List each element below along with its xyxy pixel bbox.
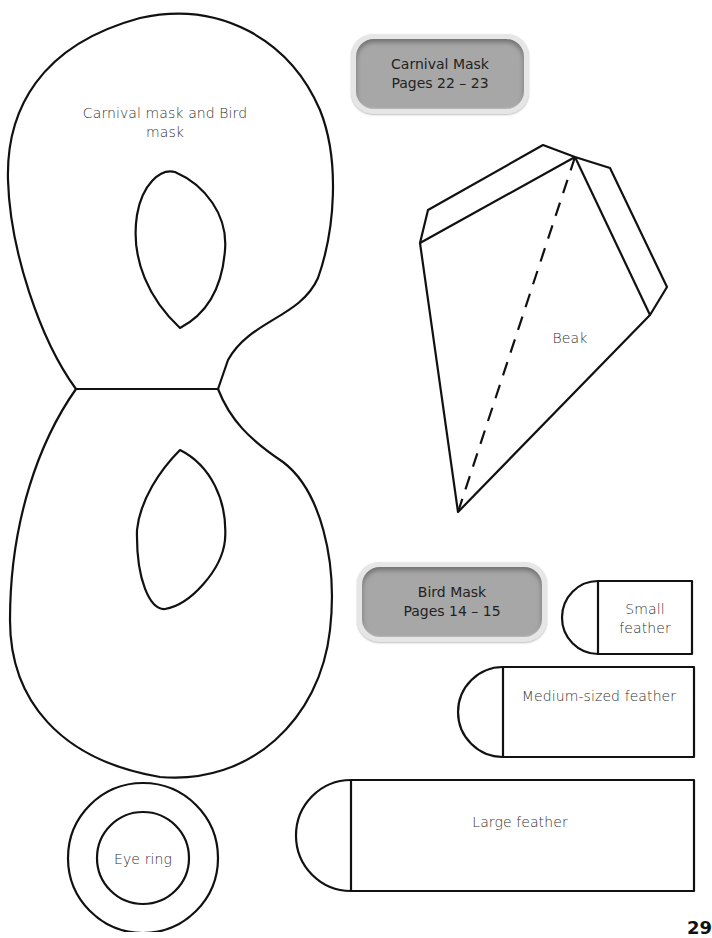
- mask-lower-eye-hole: [137, 450, 225, 609]
- eye-ring-label: Eye ring: [103, 850, 183, 869]
- mask-upper-eye-hole: [136, 171, 226, 328]
- small-feather-label: Small feather: [600, 600, 690, 638]
- carnival-badge-title: Carnival Mask: [391, 55, 489, 74]
- beak-label: Beak: [540, 329, 600, 348]
- medium-feather-outline: [458, 667, 694, 757]
- beak-side-fold: [575, 157, 650, 315]
- mask-upper-outline: [8, 14, 333, 389]
- mask-lower-outline: [10, 389, 332, 778]
- carnival-mask-badge: Carnival Mask Pages 22 – 23: [351, 34, 529, 114]
- bird-badge-title: Bird Mask: [418, 583, 486, 602]
- bird-mask-badge: Bird Mask Pages 14 – 15: [357, 562, 547, 642]
- bird-badge-pages: Pages 14 – 15: [403, 602, 500, 621]
- mask-label: Carnival mask and Bird mask: [60, 104, 270, 142]
- large-feather-outline: [296, 780, 694, 891]
- large-feather-label: Large feather: [420, 813, 620, 832]
- carnival-badge-pages: Pages 22 – 23: [391, 74, 488, 93]
- medium-feather-label: Medium-sized feather: [506, 687, 692, 706]
- page-number: 29: [687, 917, 712, 938]
